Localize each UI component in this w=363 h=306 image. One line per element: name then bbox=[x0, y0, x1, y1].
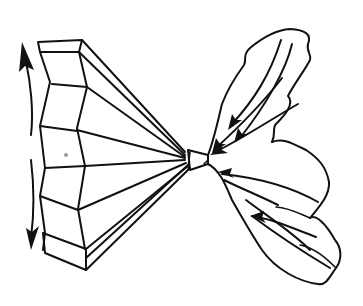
lobed-cloud bbox=[204, 29, 340, 284]
vertical-double-arrow-icon bbox=[19, 42, 39, 250]
nozzle bbox=[188, 150, 208, 170]
diagram-canvas: Line drawing of a faceted horn/funnel na… bbox=[0, 0, 363, 306]
faceted-horn bbox=[38, 40, 190, 270]
